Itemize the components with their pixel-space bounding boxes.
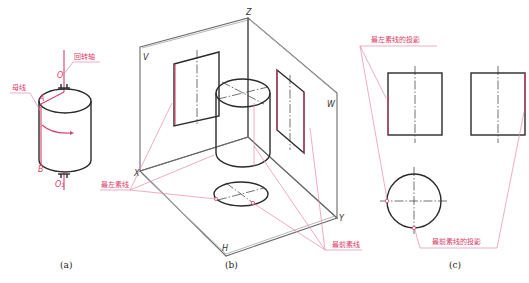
cylinder-top-centerline-2	[218, 87, 268, 99]
point-o1: O₁	[55, 180, 65, 189]
w-plane	[248, 18, 337, 218]
rotation-arrow	[42, 125, 70, 133]
v-plane	[140, 18, 248, 171]
axis-x-label: X	[133, 169, 140, 178]
leader-frontmost-w	[310, 128, 362, 250]
top-view-leftmost-point	[385, 199, 389, 203]
label-generatrix: 母线	[12, 83, 26, 92]
figure-b: 最左素线 最前素线 Z X Y V W H (b)	[100, 8, 362, 270]
axis-z-label: Z	[245, 8, 252, 17]
caption-c: (c)	[449, 260, 461, 270]
h-plane-edge	[142, 174, 335, 254]
cylinder-bottom-arc-b	[216, 153, 270, 167]
cylinder-projection-diagram: 回转轴 母线 O A B O₁ (a)	[0, 0, 529, 283]
plane-w-label: W	[327, 100, 336, 109]
leader-leftmost-proj-top	[360, 46, 387, 199]
leader-leftmost-proj-front	[360, 46, 437, 98]
point-o: O	[57, 71, 63, 80]
label-leftmost-element: 最左素线	[101, 180, 129, 189]
cylinder-bottom-arc	[39, 160, 91, 172]
figure-c: 最左素线的投影 最前素线的投影 (c)	[360, 35, 525, 270]
label-frontmost-element: 最前素线	[332, 240, 360, 249]
label-frontmost-projection: 最前素线的投影	[432, 237, 481, 246]
w-plane-edge	[250, 20, 335, 92]
point-b: B	[38, 165, 44, 174]
label-leftmost-projection: 最左素线的投影	[371, 35, 420, 44]
arrow-head-icon	[70, 131, 74, 135]
leader-leftmost-cyl	[130, 155, 214, 190]
top-view-frontmost-point	[412, 226, 416, 230]
v-plane-edge	[142, 20, 248, 48]
point-a: A	[38, 94, 44, 103]
w-projection-rect	[277, 70, 304, 153]
leader-leftmost-h	[130, 190, 216, 199]
leader-rotation-axis	[64, 62, 100, 74]
figure-a: 回转轴 母线 O A B O₁ (a)	[10, 50, 100, 270]
plane-h-label: H	[222, 244, 228, 253]
v-projection-rect	[174, 52, 219, 126]
caption-a: (a)	[60, 260, 72, 270]
label-rotation-axis: 回转轴	[74, 52, 95, 61]
plane-v-label: V	[143, 53, 149, 62]
leader-generatrix	[10, 93, 41, 112]
caption-b: (b)	[225, 260, 238, 270]
axis-y-label: Y	[339, 214, 345, 223]
